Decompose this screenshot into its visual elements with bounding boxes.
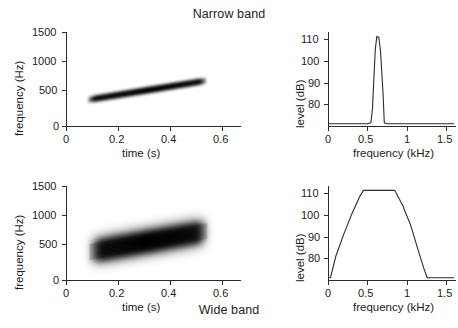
narrow-spectrogram-ytick-1000 [62, 61, 66, 62]
narrow-spectrum-ytick-90 [324, 83, 328, 84]
wide-spectrogram-xtick-02 [118, 281, 119, 285]
wide-spectrum-ytick-100 [324, 215, 328, 216]
narrow-spectrum-xtick-1 [407, 127, 408, 131]
wide-spectrogram-ylabel-500: 500 [39, 239, 57, 250]
wide-spectrum-plot-area [328, 186, 454, 280]
narrow-band-spectrogram-panel: frequency (Hz) [0, 24, 250, 154]
narrow-spectrogram-ylabel: frequency (Hz) [14, 61, 26, 136]
narrow-spectrum-ylabel: level (dB) [295, 79, 307, 128]
wide-band-title: Wide band [0, 303, 458, 317]
wide-spectrum-xlabel-0: 0 [325, 288, 331, 299]
narrow-spectrum-xlabel-15: 1.5 [437, 134, 452, 145]
narrow-spectrum-xtick-05 [367, 127, 368, 131]
wide-spectrum-xtick-0 [328, 281, 329, 285]
narrow-spectrogram-xtick-0 [66, 127, 67, 131]
narrow-spectrogram-ylabel-0: 0 [53, 121, 59, 132]
wide-spectrogram-y-axis [66, 186, 67, 281]
narrow-spectrum-xlabel-0: 0 [325, 134, 331, 145]
narrow-spectrogram-xlabel-02: 0.2 [109, 134, 124, 145]
narrow-spectrum-ylabel-90: 90 [308, 78, 320, 89]
wide-spectrogram-ylabel: frequency (Hz) [14, 215, 26, 290]
narrow-spectrogram-xlabel-04: 0.4 [161, 134, 176, 145]
narrow-spectrogram-ytick-500 [62, 90, 66, 91]
wide-spectrogram-xtick-06 [222, 281, 223, 285]
narrow-spectrogram-x-axis [66, 126, 241, 127]
narrow-spectrum-xtick-0 [328, 127, 329, 131]
wide-spectrogram-xlabel-0: 0 [63, 288, 69, 299]
wide-spectrogram-x-axis [66, 280, 241, 281]
narrow-spectrum-xtick-15 [446, 127, 447, 131]
narrow-band-title: Narrow band [0, 7, 458, 21]
narrow-spectrum-ytick-100 [324, 61, 328, 62]
narrow-spectrogram-ylabel-1000: 1000 [32, 56, 56, 67]
wide-spectrogram-xlabel-04: 0.4 [161, 288, 176, 299]
narrow-spectrum-ylabel-110: 110 [301, 34, 319, 45]
narrow-spectrogram-xlabel: time (s) [122, 148, 160, 160]
wide-spectrum-ylabel-80: 80 [308, 253, 320, 264]
wide-spectrogram-xlabel-02: 0.2 [109, 288, 124, 299]
wide-spectrum-xlabel-05: 0.5 [358, 288, 373, 299]
wide-band-spectrogram-panel: frequency (Hz) [0, 178, 250, 308]
narrow-spectrogram-y-axis [66, 32, 67, 127]
narrow-spectrogram-ylabel-1500: 1500 [32, 27, 56, 38]
wide-spectrogram-ylabel-1500: 1500 [32, 181, 56, 192]
wide-spectrum-xtick-15 [446, 281, 447, 285]
narrow-spectrum-curve [328, 32, 454, 126]
narrow-spectrum-y-axis [328, 32, 329, 127]
wide-spectrum-ylabel-100: 100 [301, 210, 319, 221]
narrow-spectrum-ytick-110 [324, 39, 328, 40]
wide-spectrogram-ytick-1500 [62, 186, 66, 187]
narrow-spectrogram-plot-area [66, 32, 236, 126]
narrow-spectrum-ylabel-100: 100 [301, 56, 319, 67]
wide-spectrum-ytick-80 [324, 258, 328, 259]
narrow-spectrogram-ylabel-500: 500 [39, 85, 57, 96]
narrow-spectrogram-xtick-02 [118, 127, 119, 131]
wide-band-spectrum-panel: level (dB) 110 100 90 80 0 0.5 1 1.5 fre… [250, 178, 458, 308]
wide-spectrogram-ylabel-0: 0 [53, 275, 59, 286]
narrow-spectrogram-image [66, 32, 236, 126]
wide-spectrogram-xtick-0 [66, 281, 67, 285]
narrow-spectrum-x-axis [328, 126, 456, 127]
wide-spectrogram-ylabel-1000: 1000 [32, 210, 56, 221]
narrow-spectrum-ylabel-80: 80 [308, 99, 320, 110]
narrow-spectrum-xlabel-1: 1 [404, 134, 410, 145]
wide-spectrum-curve [328, 186, 454, 280]
narrow-spectrum-plot-area [328, 32, 454, 126]
wide-spectrum-ytick-110 [324, 193, 328, 194]
wide-spectrum-ytick-90 [324, 237, 328, 238]
narrow-spectrogram-xlabel-06: 0.6 [213, 134, 228, 145]
wide-spectrum-xlabel-15: 1.5 [437, 288, 452, 299]
narrow-spectrogram-xlabel-0: 0 [63, 134, 69, 145]
narrow-spectrogram-xtick-04 [170, 127, 171, 131]
wide-spectrum-xtick-1 [407, 281, 408, 285]
wide-spectrum-ylabel-110: 110 [301, 188, 319, 199]
wide-spectrogram-xlabel-06: 0.6 [213, 288, 228, 299]
narrow-spectrogram-xtick-06 [222, 127, 223, 131]
wide-spectrum-xlabel-1: 1 [404, 288, 410, 299]
narrow-spectrum-xlabel-05: 0.5 [358, 134, 373, 145]
narrow-band-spectrum-panel: level (dB) 110 100 90 80 0 0.5 1 1.5 fre… [250, 24, 458, 154]
wide-spectrum-x-axis [328, 280, 456, 281]
wide-spectrum-xtick-05 [367, 281, 368, 285]
wide-spectrum-ylabel: level (dB) [295, 233, 307, 282]
wide-spectrogram-xtick-04 [170, 281, 171, 285]
figure-root: Narrow band frequency (Hz) [0, 0, 458, 328]
wide-spectrum-ylabel-90: 90 [308, 232, 320, 243]
wide-spectrogram-image [66, 186, 236, 280]
narrow-spectrum-ytick-80 [324, 104, 328, 105]
wide-spectrum-y-axis [328, 186, 329, 281]
wide-spectrogram-ytick-500 [62, 244, 66, 245]
wide-spectrogram-plot-area [66, 186, 236, 280]
narrow-spectrum-xlabel: frequency (kHz) [353, 148, 434, 160]
wide-spectrogram-ytick-1000 [62, 215, 66, 216]
narrow-spectrogram-ytick-1500 [62, 32, 66, 33]
